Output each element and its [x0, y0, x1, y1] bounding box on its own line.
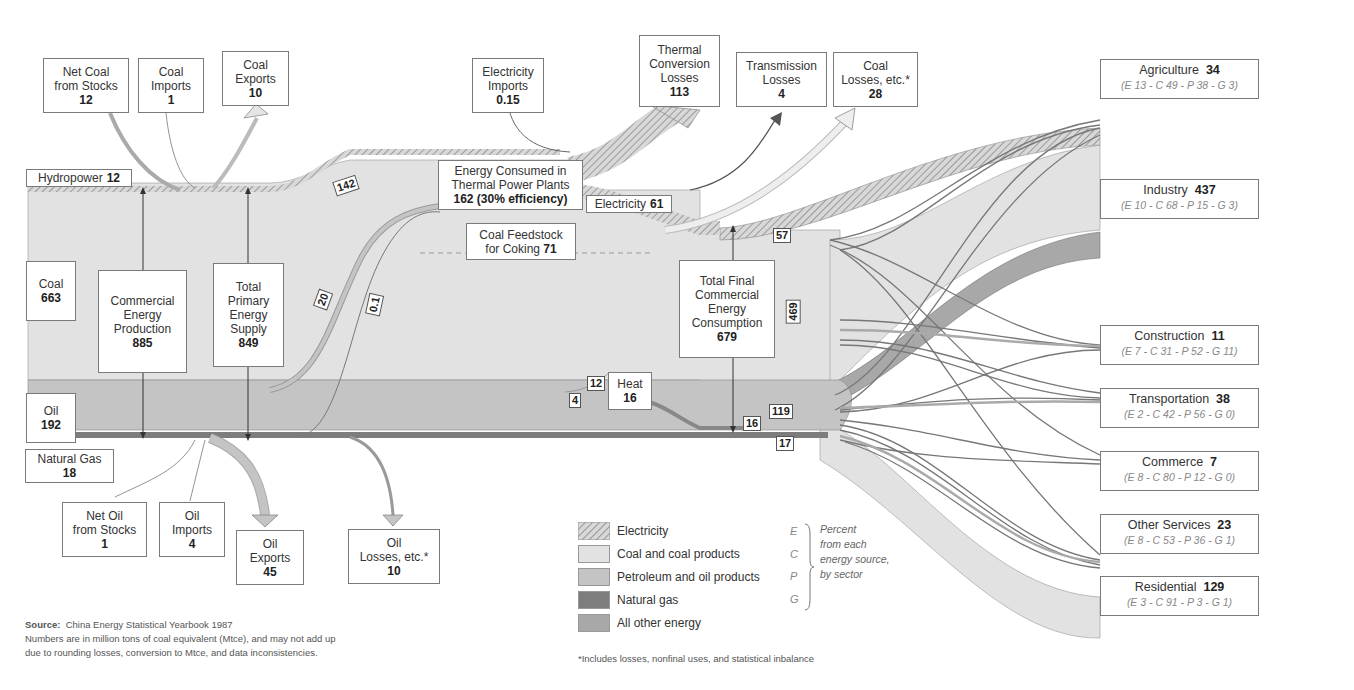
value: 12	[79, 93, 92, 107]
legend-letters: E C P G	[790, 520, 799, 610]
sector-value: 129	[1203, 580, 1224, 594]
value: 679	[717, 330, 737, 344]
sector-value: 7	[1210, 455, 1217, 469]
sector-percent: (E 13 - C 49 - P 38 - G 3)	[1101, 78, 1258, 92]
label: from Stocks	[54, 79, 117, 93]
value: 885	[132, 336, 152, 350]
total-primary-energy-supply-box: Total Primary Energy Supply 849	[213, 263, 284, 367]
flow-tag-57: 57	[773, 228, 791, 243]
value: 61	[650, 197, 663, 211]
flow-tag-4: 4	[569, 393, 581, 408]
total-final-consumption-box: Total Final Commercial Energy Consumptio…	[679, 260, 775, 358]
letter-g: G	[790, 588, 799, 611]
label: Coal	[39, 277, 64, 291]
label: Net Coal	[63, 65, 110, 79]
oil-imports-flow	[190, 440, 205, 501]
value: 0.15	[496, 93, 519, 107]
sector-other-services: Other Services 23 (E 8 - C 53 - P 36 - G…	[1100, 514, 1259, 554]
coal-imports-flow	[166, 113, 195, 188]
value: 4	[189, 537, 196, 551]
net-oil-from-stocks-box: Net Oil from Stocks 1	[62, 502, 147, 557]
other-swatch-icon	[578, 614, 610, 632]
oil-losses-box: Oil Losses, etc.* 10	[348, 529, 440, 584]
label: Electricity	[595, 197, 646, 211]
sector-name: Industry	[1143, 183, 1187, 197]
value: 4	[778, 87, 785, 101]
sector-agriculture: Agriculture 34 (E 13 - C 49 - P 38 - G 3…	[1100, 59, 1259, 99]
legend-label: Electricity	[617, 524, 668, 538]
commercial-energy-production-box: Commercial Energy Production 885	[98, 270, 187, 373]
label: Thermal Power Plants	[451, 178, 569, 192]
legend-brace-text: Percent from each energy source, by sect…	[820, 522, 889, 582]
label: Coal	[243, 58, 268, 72]
natural-gas-box: Natural Gas 18	[25, 449, 114, 483]
label: Coal	[863, 59, 888, 73]
label: Imports	[172, 523, 212, 537]
thermal-losses-arrow	[570, 112, 672, 170]
sector-percent: (E 8 - C 80 - P 12 - G 0)	[1101, 470, 1258, 484]
oil-losses-flow	[350, 437, 393, 515]
source-label: Source:	[25, 619, 60, 630]
brace-line: from each	[820, 537, 889, 552]
label: Conversion	[649, 57, 710, 71]
electricity-swatch-icon	[578, 522, 610, 540]
legend-item-other: All other energy	[578, 611, 760, 634]
label: Energy	[229, 308, 267, 322]
thermal-power-plants-box: Energy Consumed in Thermal Power Plants …	[438, 160, 583, 210]
value: 16	[623, 391, 636, 405]
oil-imports-box: Oil Imports 4	[159, 502, 225, 557]
label: Imports	[488, 79, 528, 93]
label: Consumption	[692, 316, 763, 330]
label: Total	[236, 280, 261, 294]
legend-label: Coal and coal products	[617, 547, 740, 561]
oil-box: Oil 192	[26, 393, 76, 443]
label: Oil	[44, 404, 59, 418]
label: Energy	[708, 302, 746, 316]
value: 10	[249, 86, 262, 100]
footnote: *Includes losses, nonfinal uses, and sta…	[578, 652, 814, 666]
sector-value: 437	[1195, 183, 1216, 197]
electricity-box: Electricity 61	[586, 195, 672, 213]
value: 162 (30% efficiency)	[453, 192, 567, 206]
value: 12	[107, 171, 120, 185]
label: Natural Gas	[37, 452, 101, 466]
flow-tag-12: 12	[587, 376, 605, 391]
label: Transmission	[746, 59, 817, 73]
label: Losses, etc.*	[841, 73, 910, 87]
label: Coal Feedstock	[479, 228, 562, 242]
value: 45	[263, 565, 276, 579]
label: Exports	[235, 72, 276, 86]
sector-value: 23	[1217, 518, 1231, 532]
label: Production	[114, 322, 171, 336]
label: Losses	[762, 73, 800, 87]
net-oil-stocks-flow	[115, 440, 195, 497]
value: 113	[670, 85, 689, 99]
flow-tag-119: 119	[769, 404, 793, 419]
sector-percent: (E 2 - C 42 - P 56 - G 0)	[1101, 407, 1258, 421]
legend-item-electricity: Electricity	[578, 519, 760, 542]
hydropower-box: Hydropower 12	[26, 169, 132, 187]
letter-c: C	[790, 543, 799, 566]
letter-e: E	[790, 520, 799, 543]
label: from Stocks	[73, 523, 136, 537]
legend-item-petroleum: Petroleum and oil products	[578, 565, 760, 588]
sector-percent: (E 3 - C 91 - P 3 - G 1)	[1101, 595, 1258, 609]
legend-label: All other energy	[617, 616, 701, 630]
sector-industry: Industry 437 (E 10 - C 68 - P 15 - G 3)	[1100, 179, 1259, 219]
coal-feedstock-coking-box: Coal Feedstock for Coking 71	[466, 223, 576, 260]
value: 18	[63, 466, 76, 480]
value: 10	[387, 564, 400, 578]
net-coal-from-stocks-box: Net Coal from Stocks 12	[43, 58, 129, 113]
sector-transportation: Transportation 38 (E 2 - C 42 - P 56 - G…	[1100, 388, 1259, 428]
label: Heat	[617, 377, 642, 391]
value: 71	[543, 242, 556, 256]
source-note: Source: China Energy Statistical Yearboo…	[25, 618, 336, 660]
value: 192	[41, 418, 61, 432]
value: 1	[168, 93, 175, 107]
sector-percent: (E 8 - C 53 - P 36 - G 1)	[1101, 533, 1258, 547]
coal-box: Coal 663	[26, 261, 76, 321]
sector-value: 38	[1216, 392, 1230, 406]
thermal-conversion-losses-box: Thermal Conversion Losses 113	[639, 35, 720, 107]
brace-line: energy source,	[820, 552, 889, 567]
value: 849	[238, 336, 258, 350]
